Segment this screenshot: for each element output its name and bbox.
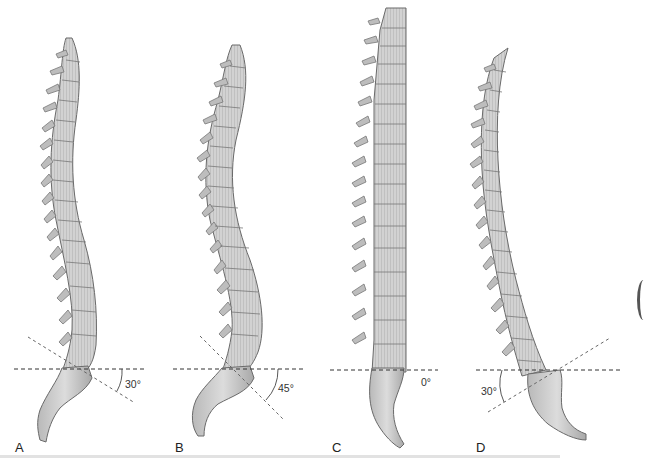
panel-label-c: C — [332, 440, 341, 455]
spine-c — [352, 8, 406, 448]
angle-label-b: 45° — [278, 382, 294, 394]
spine-a — [38, 38, 97, 442]
panel-label-a: A — [15, 440, 24, 455]
panel-label-d: D — [476, 440, 485, 455]
angle-label-d: 30° — [481, 385, 497, 397]
angle-label-c: 0° — [421, 376, 431, 388]
spine-b — [192, 45, 262, 436]
angle-label-a: 30° — [125, 378, 141, 390]
edge-bracket-mark — [637, 280, 648, 320]
angle-arcs — [117, 369, 504, 402]
bottom-divider — [0, 455, 560, 458]
panel-label-b: B — [175, 440, 184, 455]
spine-d — [470, 48, 586, 440]
